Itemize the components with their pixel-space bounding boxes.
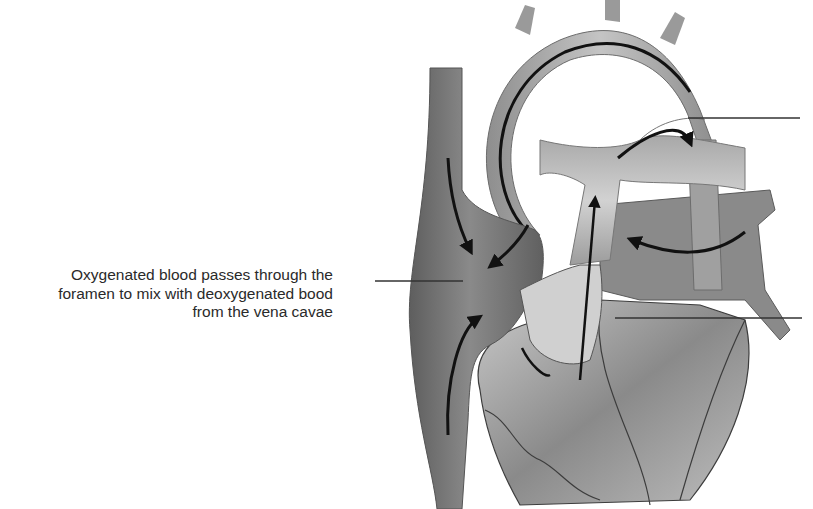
label-line-1: Oxygenated blood passes through the <box>0 266 333 285</box>
label-line-2: foramen to mix with deoxygenated bood <box>0 285 333 304</box>
ventricles <box>478 300 749 505</box>
heart-illustration <box>0 0 813 509</box>
diagram-canvas: Oxygenated blood passes through the fora… <box>0 0 813 509</box>
label-line-3: from the vena cavae <box>0 303 333 322</box>
foramen-ovale-label: Oxygenated blood passes through the fora… <box>0 266 333 322</box>
